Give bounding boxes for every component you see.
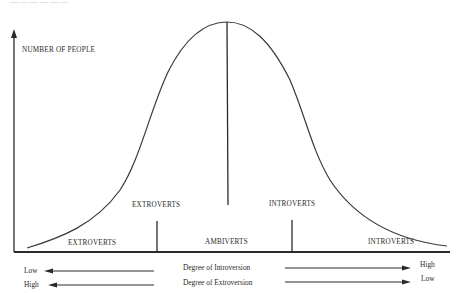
region-label-extroverts: EXTROVERTS (68, 239, 116, 247)
arrow-right-icon (402, 266, 411, 271)
center-mean-line (227, 22, 228, 205)
scale-introversion-left-label: Low (24, 266, 38, 275)
region-label-introverts: INTROVERTS (368, 238, 414, 246)
bell-curve (27, 22, 447, 248)
scale-extroversion-left-label: High (24, 280, 39, 289)
personality-distribution-diagram: — — — — — — NUMBER OF PEOPLE EXTROVERTS … (0, 0, 463, 293)
arrow-up-icon (11, 29, 17, 38)
arrow-left-icon (48, 283, 57, 288)
y-axis-label: NUMBER OF PEOPLE (22, 46, 95, 54)
scale-introversion: Low Degree of Introversion High (24, 260, 435, 275)
upper-label-extroverts: EXTROVERTS (132, 201, 180, 209)
scale-introversion-right-label: High (420, 260, 435, 269)
region-label-ambiverts: AMBIVERTS (205, 238, 248, 246)
upper-label-introverts: INTROVERTS (269, 200, 315, 208)
arrow-right-icon (402, 280, 411, 285)
y-axis (11, 29, 17, 252)
arrow-left-icon (44, 269, 53, 274)
scale-extroversion-right-label: Low (421, 274, 435, 283)
scale-introversion-title: Degree of Introversion (183, 263, 251, 272)
scale-extroversion: High Degree of Extroversion Low (24, 274, 435, 289)
scale-extroversion-title: Degree of Extroversion (183, 278, 253, 287)
cutoff-header-text: — — — — — — (9, 0, 69, 6)
